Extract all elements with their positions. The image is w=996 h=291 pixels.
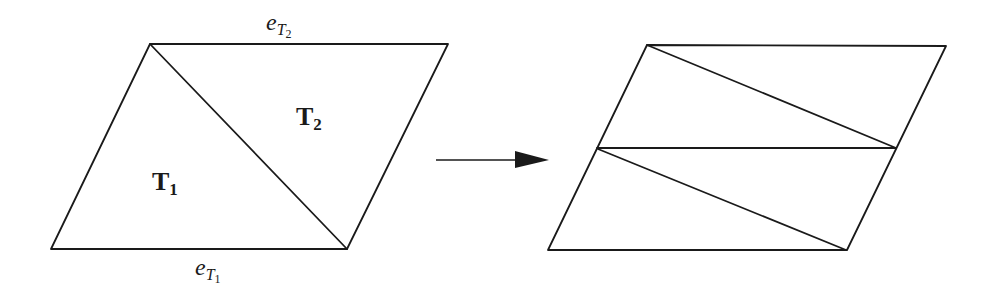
label-T2: T2 [296, 102, 322, 134]
before-diagonal [150, 44, 347, 249]
after-figure [548, 45, 946, 250]
label-T1: T1 [152, 167, 178, 199]
arrow-head-icon [515, 151, 549, 168]
label-eT2: eT2 [266, 9, 292, 41]
diagram-canvas: T1 T2 eT2 eT1 [0, 0, 996, 291]
after-diagonal-lower [598, 149, 846, 250]
before-figure: T1 T2 eT2 eT1 [51, 9, 448, 286]
label-eT1: eT1 [195, 254, 221, 286]
after-diagonal-upper [647, 45, 896, 148]
transform-arrow [436, 151, 549, 168]
